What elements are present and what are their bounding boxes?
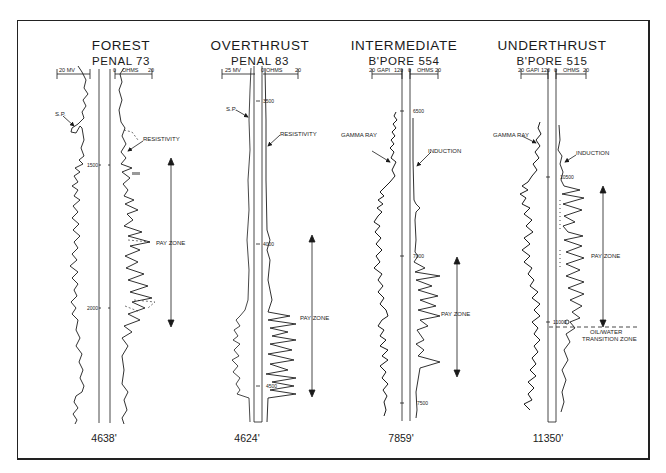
intermediate-gamma-ray-label: GAMMA RAY (341, 132, 377, 138)
intermediate-ind-scale-min: 0 (408, 67, 411, 73)
pay-zone-arrow-down (454, 370, 460, 377)
intermediate-induction-label: INDUCTION (428, 148, 461, 154)
underthrust-depth-10500: 10500 (560, 174, 574, 180)
intermediate-ind-scale-max: 20 (435, 67, 441, 73)
overthrust-res-scale-max: 20 (295, 67, 301, 73)
underthrust-oil-water-label: OIL/WATER (590, 329, 623, 335)
forest-depth-1500: 1500 (87, 162, 98, 168)
intermediate-gr-scale-unit: GAPI (377, 67, 391, 73)
underthrust-gr-scale-max: 120 (541, 67, 550, 73)
overthrust-depth-3500: 3500 (263, 98, 274, 104)
depth-labels: 1500 2000 3500 4000 4500 6500 7000 7500 … (87, 98, 574, 406)
pay-zone-arrow-down (600, 320, 606, 327)
pay-zone-arrow-up (454, 257, 460, 264)
overthrust-resistivity-label: RESISTIVITY (280, 131, 317, 137)
overthrust-sp-scale-label: 25 MV (225, 67, 241, 73)
resistivity-shaded-marker (132, 172, 140, 175)
intermediate-pay-zone-label: PAY ZONE (441, 311, 470, 317)
overthrust-depth-4500: 4500 (266, 383, 277, 389)
forest-res-scale-min: 0 (113, 67, 116, 73)
resistivity-arrow (128, 141, 143, 151)
gamma-ray-curve (520, 122, 541, 410)
sp-curve (70, 66, 88, 424)
forest-res-scale-max: 20 (148, 67, 154, 73)
forest-resistivity-label: RESISTIVITY (143, 136, 180, 142)
underthrust-pay-zone-label: PAY ZONE (591, 253, 620, 259)
induction-arrow (565, 155, 576, 162)
intermediate-depth-7000: 7000 (413, 253, 424, 259)
forest-depth-2000: 2000 (87, 305, 98, 311)
underthrust-gamma-ray-label: GAMMA RAY (493, 132, 529, 138)
forest-pay-zone-label: PAY ZONE (156, 240, 185, 246)
intermediate-ind-scale-unit: OHMS (417, 67, 434, 73)
overthrust-depth-4000: 4000 (263, 241, 274, 247)
induction-curve (558, 125, 584, 412)
overthrust-pay-zone-label: PAY ZONE (300, 315, 329, 321)
pay-zone-arrow-up (168, 158, 174, 165)
resistivity-dashed-curve (124, 130, 155, 312)
resistivity-arrow (268, 135, 280, 146)
intermediate-depth-7500: 7500 (417, 400, 428, 406)
induction-curve (413, 118, 440, 418)
induction-arrow (417, 152, 431, 166)
forest-res-scale-unit: OHMS (122, 67, 139, 73)
underthrust-induction-label: INDUCTION (576, 150, 609, 156)
pay-zone-arrow-down (168, 320, 174, 327)
underthrust-ind-scale-min: 0 (554, 67, 557, 73)
sp-arrow (63, 116, 74, 126)
pay-zone-arrow-up (600, 186, 606, 193)
intermediate-gr-scale-max: 120 (394, 67, 403, 73)
well-log-intermediate (372, 69, 460, 421)
resistivity-curve (119, 68, 152, 424)
well-log-diagram: 20 MV 0 OHMS 20 25 MV 0 OHMS 20 20 GAPI … (0, 0, 666, 473)
overthrust-sp-label: S.P. (226, 106, 237, 112)
underthrust-ind-scale-max: 20 (583, 67, 589, 73)
forest-sp-label: S.P. (55, 111, 66, 117)
well-log-underthrust (520, 69, 640, 422)
intermediate-depth-6500: 6500 (413, 108, 424, 114)
underthrust-gr-scale-min: 20 (518, 67, 524, 73)
underthrust-ind-scale-unit: OHMS (563, 67, 580, 73)
pay-zone-arrow-up (309, 235, 315, 242)
scale-labels: 20 MV 0 OHMS 20 25 MV 0 OHMS 20 20 GAPI … (59, 67, 589, 73)
underthrust-transition-zone-label: TRANSITION ZONE (582, 336, 637, 342)
overthrust-res-scale-min: 0 (261, 67, 264, 73)
underthrust-depth-11000: 11000 (553, 319, 567, 325)
pay-zone-arrow-down (309, 390, 315, 397)
sp-arrow (236, 110, 248, 117)
forest-sp-scale-label: 20 MV (59, 67, 75, 73)
underthrust-gr-scale-unit: GAPI (526, 67, 540, 73)
overthrust-res-scale-unit: OHMS (266, 67, 283, 73)
sp-curve (232, 68, 251, 422)
gamma-ray-arrow (372, 151, 390, 162)
intermediate-gr-scale-min: 20 (369, 67, 375, 73)
gamma-ray-curve (374, 112, 397, 416)
